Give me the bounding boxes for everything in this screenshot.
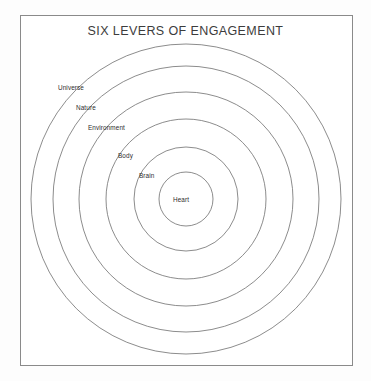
ring-label-environment: Environment xyxy=(88,124,125,131)
ring-label-body: Body xyxy=(118,152,133,159)
diagram-canvas: SIX LEVERS OF ENGAGEMENT UniverseNatureE… xyxy=(0,0,371,381)
ring-label-universe: Universe xyxy=(58,84,84,91)
ring-label-heart: Heart xyxy=(173,196,189,203)
ring-label-brain: Brain xyxy=(139,172,154,179)
ring-label-nature: Nature xyxy=(76,104,96,111)
concentric-rings-group xyxy=(0,0,371,381)
